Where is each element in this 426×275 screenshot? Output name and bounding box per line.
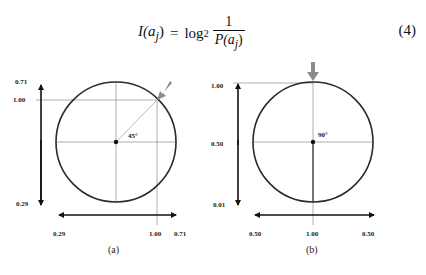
x-label-left: 0.29 [53, 230, 66, 238]
center-dot [311, 140, 315, 144]
angle-label: 45° [128, 132, 138, 140]
pointer-arrow-icon [157, 81, 172, 100]
y-label-bottom: 0.29 [16, 200, 29, 208]
y-label-mark: 1.00 [13, 96, 26, 104]
y-label-top: 1.00 [211, 82, 224, 90]
x-label-mark: 1.00 [149, 230, 162, 238]
pointer-arrow-icon [307, 62, 319, 81]
x-label-mid: 1.00 [306, 230, 319, 238]
x-label-right: 0.71 [174, 230, 187, 238]
x-label-left: 0.50 [249, 230, 262, 238]
angle-label: 90° [318, 131, 328, 139]
x-label-right: 0.50 [362, 230, 375, 238]
caption-b: (b) [306, 244, 318, 256]
y-label-top: 0.71 [15, 78, 28, 86]
y-label-mid: 0.50 [211, 140, 224, 148]
caption-a: (a) [108, 244, 119, 256]
figure-a: 0.71 1.00 0.29 0.29 1.00 0.71 45° (a) [13, 78, 187, 256]
figure-canvas: 0.71 1.00 0.29 0.29 1.00 0.71 45° (a) 1.… [0, 0, 426, 275]
figure-b: 1.00 0.50 0.01 0.50 1.00 0.50 90° (b) [211, 62, 375, 256]
y-label-bottom: 0.01 [213, 201, 226, 209]
center-dot [114, 140, 118, 144]
